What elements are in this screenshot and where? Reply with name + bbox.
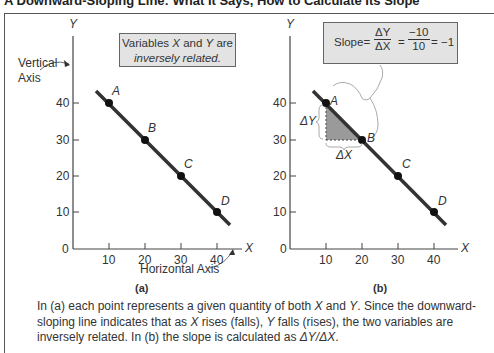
point-a-b — [322, 99, 330, 107]
x-tick-10-b: 10 — [319, 253, 332, 267]
value-fraction: −10 10 — [408, 26, 430, 53]
x-tick-40-a: 40 — [210, 253, 223, 267]
y-tick-10-b: 10 — [273, 205, 286, 219]
point-c-a — [177, 172, 185, 180]
panel-a — [40, 36, 242, 268]
panel-label-a: (a) — [135, 282, 148, 294]
point-label-a-a: A — [112, 84, 120, 98]
vertical-axis-annotation: Vertical Axis — [18, 56, 57, 86]
x-axis-label-a: X — [245, 241, 253, 255]
point-label-c-b: C — [402, 157, 411, 171]
delta-x-label: ΔX — [336, 148, 352, 162]
point-c-b — [394, 172, 402, 180]
x-axis-label-b: X — [461, 241, 469, 255]
y-tick-30-a: 30 — [56, 133, 69, 147]
x-tick-20-b: 20 — [355, 253, 368, 267]
point-d-a — [213, 208, 221, 216]
point-label-c-a: C — [184, 157, 193, 171]
slope-result: = −1 — [431, 36, 454, 48]
origin-b: 0 — [280, 242, 287, 256]
y-tick-20-a: 20 — [56, 169, 69, 183]
x-tick-30-b: 30 — [391, 253, 404, 267]
delta-y-brace — [316, 105, 323, 139]
y-tick-40-b: 40 — [273, 96, 286, 110]
point-b-a — [141, 136, 149, 144]
y-axis-label-a: Y — [69, 17, 77, 31]
point-label-b-a: B — [148, 121, 156, 135]
figure-caption: In (a) each point represents a given qua… — [37, 299, 477, 346]
point-d-b — [430, 208, 438, 216]
x-tick-20-a: 20 — [138, 253, 151, 267]
y-axis-label-b: Y — [286, 17, 294, 31]
point-label-d-b: D — [438, 194, 447, 208]
demand-line-a — [96, 91, 230, 225]
demand-line-b — [313, 91, 446, 225]
y-tick-10-a: 10 — [56, 205, 69, 219]
slope-fraction: ΔY ΔX — [374, 26, 391, 53]
point-label-d-a: D — [221, 194, 230, 208]
x-tick-30-a: 30 — [174, 253, 187, 267]
origin-a: 0 — [62, 242, 69, 256]
slope-formula-box: Slope= ΔY ΔX = −10 10 = −1 — [323, 22, 458, 64]
point-label-b-b: B — [367, 131, 375, 145]
point-b-b — [358, 136, 366, 144]
y-tick-30-b: 30 — [273, 133, 286, 147]
point-a-a — [105, 99, 113, 107]
delta-y-label: ΔY — [300, 114, 316, 128]
x-tick-10-a: 10 — [102, 253, 115, 267]
inverse-relation-note: Variables X and Y are inversely related. — [119, 33, 236, 67]
panel-label-b: (b) — [373, 282, 387, 294]
x-tick-40-b: 40 — [427, 253, 440, 267]
y-tick-20-b: 20 — [273, 169, 286, 183]
slope-label: Slope= — [334, 36, 370, 48]
point-label-a-b: A — [330, 94, 338, 108]
y-tick-40-a: 40 — [56, 96, 69, 110]
